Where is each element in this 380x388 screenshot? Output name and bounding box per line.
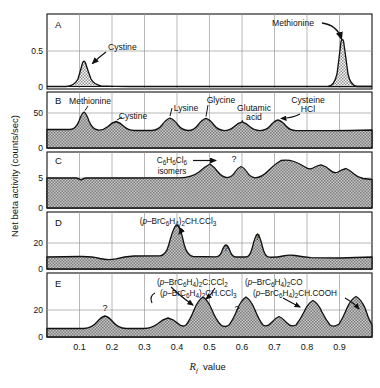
panel-B-annotation-glycine: Glycine — [207, 95, 236, 105]
panel-B-annotation-methionine: Methionine — [69, 96, 111, 106]
panel-A-annotation-methionine: Methionine — [272, 18, 314, 28]
panel-C-label: C — [55, 155, 62, 166]
xtick-5: 0.6 — [236, 342, 249, 352]
xtick-4: 0.5 — [203, 342, 216, 352]
panel-D-ytick-1: 0 — [38, 264, 43, 274]
panel-A-label: A — [55, 19, 62, 30]
panel-B-ytick-1: 0 — [38, 143, 43, 153]
xtick-7: 0.8 — [301, 342, 314, 352]
xtick-6: 0.7 — [268, 342, 281, 352]
panel-D-annotation-compound: (p–BrC6H4)2CH.CCl3 — [140, 217, 217, 227]
panel-E-ytick-0: 20 — [34, 305, 44, 315]
beta-activity-chromatogram-figure: A 0.5 0 Cystine Methionine — [0, 0, 380, 388]
panel-E-annotation-question-2: ? — [234, 304, 239, 314]
panel-B-ytick-0: 50 — [34, 108, 44, 118]
panel-E-label: E — [55, 278, 61, 289]
panel-E: E 20 0 (p–BrC6H4)2C:CCl2 (p–BrC6H4)2CO (… — [34, 273, 372, 342]
panel-C-annotation-question: ? — [231, 154, 236, 164]
xtick-3: 0.4 — [171, 342, 184, 352]
chart-svg: A 0.5 0 Cystine Methionine — [0, 0, 380, 388]
xtick-1: 0.2 — [106, 342, 119, 352]
panel-A-annotation-cystine: Cystine — [108, 42, 137, 52]
panel-C-ytick-1: 0 — [38, 203, 43, 213]
panel-E-annotation-compound-2: (p–BrC6H4)2CO — [245, 278, 303, 288]
x-axis: 0.1 0.2 0.3 0.4 0.5 0.6 0.7 0.8 0.9 — [73, 342, 346, 352]
panel-B-annotation-cystine: Cystine — [119, 111, 148, 121]
panel-A: A 0.5 0 Cystine Methionine — [31, 14, 372, 92]
panel-D: D 20 0 (p–BrC6H4)2CH.CCl3 ? ? — [34, 212, 372, 274]
panel-D-ytick-0: 20 — [34, 238, 44, 248]
panel-A-ytick-1: 0 — [38, 82, 43, 92]
xtick-0: 0.1 — [73, 342, 86, 352]
panel-A-ytick-0: 0.5 — [31, 46, 43, 56]
panel-E-annotation-compound-3: (p–BrC6H4)2CH.CCl3 — [160, 289, 237, 299]
panel-B-annotation-acid: acid — [246, 112, 262, 122]
panel-E-ytick-1: 0 — [38, 332, 43, 342]
panel-D-annotation-question-2: ? — [255, 232, 260, 242]
panel-B-annotation-hcl: HCl — [301, 104, 315, 114]
panel-C: C 5 0 C6H6Cl6 isomers ? — [38, 152, 372, 213]
xtick-8: 0.9 — [333, 342, 346, 352]
panel-D-label: D — [55, 217, 62, 228]
y-axis-title: Net beta activity (counts/sec) — [9, 115, 20, 237]
panel-C-annotation-isomers: isomers — [158, 167, 187, 176]
panel-B-label: B — [55, 95, 61, 106]
panel-B: B 50 0 Methionine Cystine Lysine Glycine… — [34, 92, 372, 153]
xtick-2: 0.3 — [138, 342, 151, 352]
panel-E-annotation-question-1: ? — [102, 303, 107, 313]
x-axis-title-word: value — [203, 361, 226, 372]
panel-D-annotation-question-1: ? — [223, 243, 228, 253]
panel-C-ytick-0: 5 — [38, 173, 43, 183]
panel-B-annotation-lysine: Lysine — [174, 103, 199, 113]
panel-C-annotation-c6h6cl6: C6H6Cl6 — [157, 156, 188, 166]
